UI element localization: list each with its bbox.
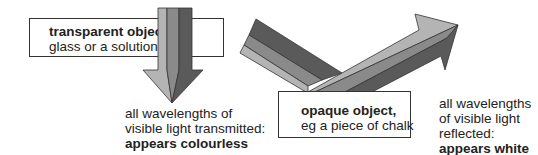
appears-white: appears white <box>439 141 531 155</box>
incident-light-beam <box>240 19 342 92</box>
opaque-caption: all wavelengths of visible light reflect… <box>439 96 531 155</box>
opaque-subtitle: eg a piece of chalk <box>301 118 414 133</box>
transmitted-light-arrow <box>143 8 203 103</box>
reflected-light-arrow <box>308 14 458 92</box>
opaque-title: opaque object, <box>301 103 414 118</box>
appears-colourless: appears colourless <box>125 136 265 151</box>
opaque-object-label: opaque object, eg a piece of chalk <box>301 103 414 133</box>
transparent-caption: all wavelengths of visible light transmi… <box>125 106 265 151</box>
